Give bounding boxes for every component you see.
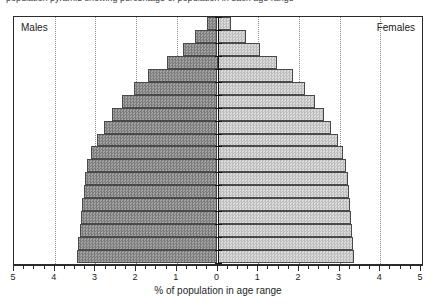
bar-male: [81, 211, 218, 224]
bar-female: [218, 69, 293, 82]
plot-area: Males Females: [14, 17, 422, 264]
x-tick-minor: [155, 266, 156, 269]
x-tick-label: 5: [10, 272, 15, 282]
x-tick-minor: [288, 266, 289, 269]
bar-male: [85, 172, 217, 185]
bar-female: [218, 224, 352, 237]
bar-male: [97, 134, 217, 147]
x-tick-minor: [206, 266, 207, 269]
age-band-tick: [215, 159, 222, 160]
bar-female: [218, 198, 351, 211]
x-tick-minor: [166, 266, 167, 269]
plot-frame: Males Females: [13, 16, 423, 265]
x-tick-minor: [64, 266, 65, 269]
bar-male: [183, 43, 218, 56]
x-tick-major: [54, 266, 55, 271]
age-band-tick: [215, 211, 222, 212]
x-tick-major: [339, 266, 340, 271]
x-tick-label: 1: [173, 272, 178, 282]
age-band-tick: [215, 198, 222, 199]
bar-female: [218, 185, 349, 198]
x-tick-label: 3: [336, 272, 341, 282]
bar-male: [78, 237, 217, 250]
x-tick-label: 2: [295, 272, 300, 282]
x-tick-minor: [318, 266, 319, 269]
x-tick-label: 4: [377, 272, 382, 282]
x-tick-minor: [145, 266, 146, 269]
age-band-tick: [215, 263, 222, 264]
bar-male: [134, 82, 217, 95]
x-tick-minor: [23, 266, 24, 269]
age-band-tick: [215, 121, 222, 122]
bar-female: [218, 30, 246, 43]
x-tick-minor: [369, 266, 370, 269]
x-axis-title: % of population in age range: [0, 285, 436, 296]
x-tick-minor: [278, 266, 279, 269]
bar-male: [87, 159, 217, 172]
x-tick-minor: [186, 266, 187, 269]
bar-female: [218, 172, 348, 185]
x-tick-minor: [115, 266, 116, 269]
x-tick-minor: [125, 266, 126, 269]
bar-male: [148, 69, 217, 82]
bar-male: [122, 95, 218, 108]
bar-male: [104, 121, 218, 134]
x-tick-minor: [227, 266, 228, 269]
x-tick-major: [13, 266, 14, 271]
bar-female: [218, 159, 346, 172]
x-tick-minor: [389, 266, 390, 269]
x-tick-major: [379, 266, 380, 271]
x-tick-label: 3: [92, 272, 97, 282]
x-axis: 54321012345: [13, 265, 423, 266]
x-tick-major: [298, 266, 299, 271]
bar-male: [112, 108, 218, 121]
age-band-tick: [215, 224, 222, 225]
x-tick-major: [257, 266, 258, 271]
clipped-caption-text: population pyramid showing percentage of…: [6, 0, 294, 3]
x-tick-minor: [267, 266, 268, 269]
bar-female: [218, 146, 343, 159]
x-tick-minor: [74, 266, 75, 269]
bar-female: [218, 134, 338, 147]
age-band-tick: [215, 95, 222, 96]
bar-male: [80, 224, 218, 237]
bar-female: [218, 121, 332, 134]
bar-female: [218, 82, 306, 95]
bar-male: [84, 185, 217, 198]
x-tick-label: 4: [51, 272, 56, 282]
age-band-tick: [215, 108, 222, 109]
x-tick-minor: [33, 266, 34, 269]
bar-male: [77, 250, 217, 263]
bar-female: [218, 95, 316, 108]
x-tick-minor: [44, 266, 45, 269]
females-label: Females: [377, 22, 415, 33]
x-tick-label: 2: [133, 272, 138, 282]
x-tick-minor: [359, 266, 360, 269]
bar-female: [218, 237, 353, 250]
x-tick-major: [135, 266, 136, 271]
x-tick-label: 0: [214, 272, 219, 282]
age-band-tick: [215, 82, 222, 83]
age-band-tick: [215, 17, 222, 18]
bar-female: [218, 56, 277, 69]
clipped-caption-strip: population pyramid showing percentage of…: [0, 0, 436, 11]
bar-male: [195, 30, 217, 43]
x-tick-minor: [105, 266, 106, 269]
x-tick-minor: [237, 266, 238, 269]
x-tick-minor: [400, 266, 401, 269]
x-tick-label: 1: [255, 272, 260, 282]
age-band-tick: [215, 237, 222, 238]
x-tick-minor: [410, 266, 411, 269]
gridline: [380, 17, 381, 264]
x-tick-minor: [196, 266, 197, 269]
x-tick-minor: [328, 266, 329, 269]
x-tick-label: 5: [417, 272, 422, 282]
age-band-tick: [215, 134, 222, 135]
population-pyramid-chart: population pyramid showing percentage of…: [0, 0, 436, 306]
bar-female: [218, 43, 261, 56]
x-tick-major: [176, 266, 177, 271]
x-tick-minor: [247, 266, 248, 269]
age-band-tick: [215, 185, 222, 186]
bar-male: [82, 198, 217, 211]
bar-male: [167, 56, 218, 69]
